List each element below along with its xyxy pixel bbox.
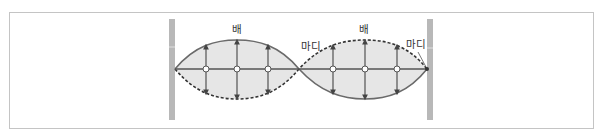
node-label-2: 마디 — [406, 38, 426, 50]
right-end-node-dot — [425, 67, 429, 71]
antinode-label-2: 배 — [359, 23, 369, 35]
standing-wave-diagram: 배 마디 배 마디 — [0, 0, 604, 139]
node-label-1: 마디 — [301, 40, 321, 52]
left-wall — [169, 19, 175, 120]
antinode-label-1: 배 — [232, 23, 242, 35]
